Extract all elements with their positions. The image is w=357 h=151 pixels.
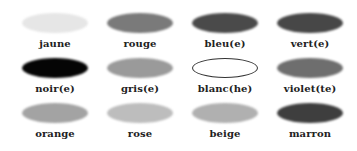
color-ellipse xyxy=(107,58,173,78)
color-label: jaune xyxy=(12,38,98,49)
swatch-beige: beige xyxy=(182,103,266,147)
swatch-noir: noir(e) xyxy=(12,58,96,102)
color-label: orange xyxy=(12,128,98,139)
color-label: rouge xyxy=(97,38,183,49)
swatch-orange: orange xyxy=(12,103,96,147)
swatch-marron: marron xyxy=(267,103,351,147)
swatch-jaune: jaune xyxy=(12,13,96,57)
color-ellipse xyxy=(22,103,88,123)
color-ellipse xyxy=(22,13,88,33)
color-ellipse xyxy=(22,58,88,78)
color-ellipse xyxy=(277,58,343,78)
swatch-bleu: bleu(e) xyxy=(182,13,266,57)
color-label: beige xyxy=(182,128,268,139)
color-swatch-grid: jaune rouge bleu(e) vert(e) noir(e) gris… xyxy=(0,0,357,151)
color-label: rose xyxy=(97,128,183,139)
color-ellipse xyxy=(277,103,343,123)
color-label: violet(te) xyxy=(267,83,353,94)
color-ellipse xyxy=(192,103,258,123)
swatch-violet: violet(te) xyxy=(267,58,351,102)
color-ellipse xyxy=(277,13,343,33)
swatch-vert: vert(e) xyxy=(267,13,351,57)
color-label: marron xyxy=(267,128,353,139)
swatch-blanc: blanc(he) xyxy=(182,58,266,102)
color-label: bleu(e) xyxy=(182,38,268,49)
color-label: blanc(he) xyxy=(182,83,268,94)
color-ellipse xyxy=(107,13,173,33)
color-label: gris(e) xyxy=(97,83,183,94)
color-ellipse xyxy=(192,13,258,33)
swatch-rose: rose xyxy=(97,103,181,147)
color-ellipse xyxy=(192,58,258,78)
swatch-gris: gris(e) xyxy=(97,58,181,102)
color-ellipse xyxy=(107,103,173,123)
swatch-rouge: rouge xyxy=(97,13,181,57)
color-label: noir(e) xyxy=(12,83,98,94)
color-label: vert(e) xyxy=(267,38,353,49)
